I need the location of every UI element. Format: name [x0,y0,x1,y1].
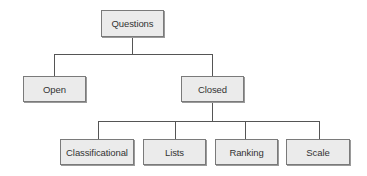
connector-to-closed [212,54,213,76]
connector-to-lists [175,121,176,139]
node-classificational: Classificational [60,139,134,165]
node-ranking: Ranking [215,139,278,165]
node-scale: Scale [286,139,350,165]
connector-closed-down [212,102,213,121]
node-closed: Closed [181,76,244,102]
connector-to-classificational [98,121,99,139]
connector-to-ranking [245,121,246,139]
node-questions: Questions [101,10,164,37]
connector-to-open [54,54,55,76]
connector-level1-bus [54,54,213,55]
node-open: Open [23,76,86,102]
connector-to-scale [319,121,320,139]
node-lists: Lists [143,139,206,165]
connector-level2-bus [98,121,320,122]
connector-questions-down [132,37,133,54]
